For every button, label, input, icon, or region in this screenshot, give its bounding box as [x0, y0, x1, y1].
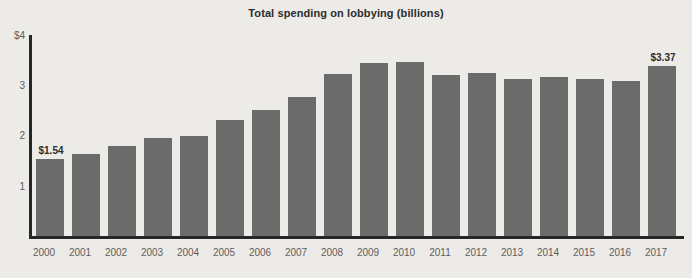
x-axis-tick-label: 2008	[312, 247, 352, 258]
x-axis-tick-label: 2001	[60, 247, 100, 258]
x-axis-tick-label: 2016	[600, 247, 640, 258]
bar-group[interactable]	[504, 79, 532, 236]
bar-group[interactable]	[324, 74, 352, 236]
x-axis-tick-label: 2015	[564, 247, 604, 258]
bar[interactable]	[36, 159, 64, 236]
bar-group[interactable]	[108, 146, 136, 236]
bar-value-label: $3.37	[643, 52, 683, 63]
bar-group[interactable]	[288, 97, 316, 236]
x-axis-tick-label: 2002	[96, 247, 136, 258]
bar-group[interactable]	[432, 75, 460, 236]
bar-group[interactable]	[72, 154, 100, 236]
bar[interactable]	[144, 138, 172, 236]
x-axis-tick-label: 2000	[24, 247, 64, 258]
bar-group[interactable]	[396, 62, 424, 236]
x-axis-tick-label: 2013	[492, 247, 532, 258]
bar[interactable]	[432, 75, 460, 236]
lobbying-spending-bar-chart: Total spending on lobbying (billions) $4…	[0, 0, 692, 278]
y-axis-tick-label: 1	[3, 180, 25, 191]
bar[interactable]	[468, 73, 496, 236]
bar-group[interactable]	[360, 63, 388, 236]
x-axis-tick-label: 2005	[204, 247, 244, 258]
bar-group[interactable]	[144, 138, 172, 236]
bar[interactable]	[324, 74, 352, 236]
bar-group[interactable]	[180, 136, 208, 236]
bar[interactable]	[216, 120, 244, 236]
bar[interactable]	[612, 81, 640, 236]
x-axis-line	[29, 236, 684, 239]
bar[interactable]	[252, 110, 280, 236]
bar[interactable]	[180, 136, 208, 236]
bar[interactable]	[72, 154, 100, 236]
y-axis-tick-label: 3	[3, 80, 25, 91]
bar[interactable]	[288, 97, 316, 236]
x-axis-tick-label: 2011	[420, 247, 460, 258]
y-axis-tick-labels: $4321	[0, 0, 25, 278]
bar-group[interactable]	[576, 79, 604, 236]
x-axis-tick-label: 2012	[456, 247, 496, 258]
bar[interactable]	[540, 77, 568, 236]
bar[interactable]	[396, 62, 424, 236]
bar[interactable]	[648, 66, 676, 236]
bar-group[interactable]	[36, 159, 64, 236]
bar-value-label: $1.54	[31, 145, 71, 156]
bar[interactable]	[360, 63, 388, 236]
chart-title: Total spending on lobbying (billions)	[0, 7, 692, 19]
x-axis-tick-label: 2017	[636, 247, 676, 258]
bar[interactable]	[108, 146, 136, 236]
x-axis-tick-label: 2009	[348, 247, 388, 258]
x-axis-tick-label: 2014	[528, 247, 568, 258]
bar[interactable]	[576, 79, 604, 236]
x-axis-tick-label: 2006	[240, 247, 280, 258]
bar-group[interactable]	[468, 73, 496, 236]
y-axis-tick-label: 2	[3, 130, 25, 141]
bar-group[interactable]	[540, 77, 568, 236]
x-axis-tick-label: 2004	[168, 247, 208, 258]
bar[interactable]	[504, 79, 532, 236]
x-axis-tick-label: 2010	[384, 247, 424, 258]
bar-group[interactable]	[216, 120, 244, 236]
x-axis-tick-label: 2003	[132, 247, 172, 258]
bar-group[interactable]	[648, 66, 676, 236]
x-axis-tick-label: 2007	[276, 247, 316, 258]
bar-group[interactable]	[612, 81, 640, 236]
y-axis-tick-label: $4	[3, 29, 25, 40]
bar-group[interactable]	[252, 110, 280, 236]
